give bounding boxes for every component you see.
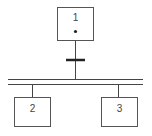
step-2-label: 2 xyxy=(30,103,36,114)
grafcet-diagram: 1 2 3 xyxy=(0,0,152,136)
step-1-label: 1 xyxy=(73,12,79,23)
active-token-icon xyxy=(74,30,77,33)
step-1[interactable]: 1 xyxy=(58,8,94,41)
step-2[interactable]: 2 xyxy=(15,98,51,127)
step-3-label: 3 xyxy=(117,103,123,114)
step-3[interactable]: 3 xyxy=(102,98,138,127)
